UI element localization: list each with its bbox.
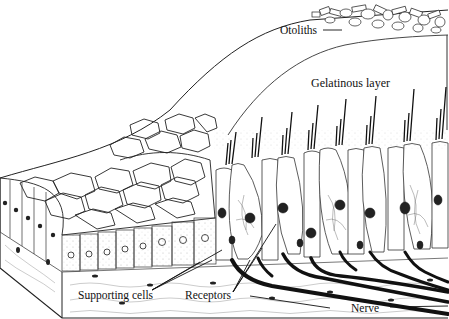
epithelial-surface-mosaic xyxy=(0,114,217,235)
label-otoliths: Otoliths xyxy=(280,25,317,37)
supporting-cells-row xyxy=(62,218,216,271)
otoliths-cluster xyxy=(312,5,445,33)
hair-cell-columns xyxy=(216,142,448,261)
label-gelatinous-layer: Gelatinous layer xyxy=(311,77,390,89)
label-nerve: Nerve xyxy=(351,303,379,315)
macula-illustration xyxy=(0,0,449,319)
label-supporting-cells: Supporting cells xyxy=(78,290,153,302)
label-receptors: Receptors xyxy=(185,290,231,302)
left-side-cells xyxy=(0,178,46,261)
